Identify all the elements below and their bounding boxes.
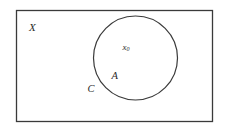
universe-label: X (28, 21, 37, 33)
set-diagram: X x0 A C (0, 0, 227, 130)
universe-rectangle (17, 11, 213, 122)
boundary-label: C (88, 83, 96, 94)
set-a-circle (94, 16, 178, 100)
set-a-label: A (111, 70, 119, 81)
point-label: x0 (122, 42, 130, 53)
point-label-subscript: 0 (127, 46, 130, 52)
